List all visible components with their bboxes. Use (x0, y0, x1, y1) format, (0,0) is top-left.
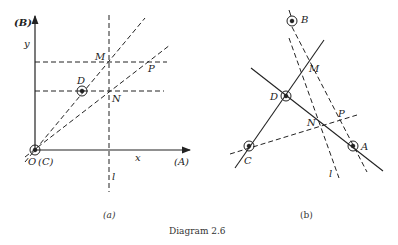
label-D: D (269, 91, 278, 102)
diagram-a-labels: (B) y M P D N O (C) x (A) l (14, 17, 189, 182)
line-B-tip (289, 10, 291, 16)
label-D: D (76, 75, 85, 86)
point-B (287, 16, 297, 26)
label-y: y (23, 38, 30, 49)
label-P: P (147, 63, 155, 74)
label-l: l (112, 171, 115, 182)
point-D (281, 91, 291, 101)
label-A-axis: (A) (174, 156, 189, 167)
label-B: B (300, 14, 308, 25)
label-M: M (308, 63, 320, 74)
caption-a: (a) (103, 210, 116, 220)
label-B-axis: (B) (14, 17, 32, 28)
label-P: P (337, 108, 345, 119)
figure-title: Diagram 2.6 (169, 226, 226, 236)
label-C-origin: (C) (38, 156, 54, 167)
label-C: C (244, 155, 252, 166)
line-l-BMN (289, 38, 339, 178)
point-C (244, 141, 254, 151)
diagram-b-labels: B M D P N C A l (244, 14, 368, 179)
line-DNA (251, 68, 383, 171)
diagram-b (230, 10, 383, 178)
label-O: O (28, 156, 36, 167)
point-A (348, 141, 358, 151)
label-l: l (329, 168, 332, 179)
diagram-canvas: (B) y M P D N O (C) x (A) l (0, 0, 398, 245)
label-N: N (111, 93, 122, 104)
label-A: A (360, 141, 368, 152)
label-x: x (135, 152, 141, 163)
line-OM (25, 18, 145, 162)
label-M: M (94, 51, 106, 62)
caption-b: (b) (300, 210, 313, 220)
label-N: N (306, 117, 317, 128)
